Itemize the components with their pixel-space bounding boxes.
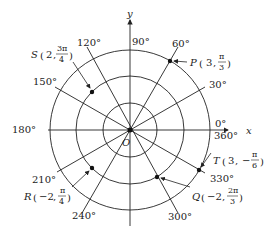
svg-text:2: 2 [46,49,52,60]
point-p [168,59,172,63]
angle-label-300: 300° [168,211,192,222]
svg-text:Q: Q [192,191,200,202]
label-point-r: R ( −2 , π 4 ) [23,186,71,206]
svg-text:): ) [260,156,264,167]
arrow-r [72,171,89,187]
svg-text:3: 3 [230,197,235,206]
angle-label-240: 240° [72,210,96,221]
point-t [197,168,201,172]
svg-text:−2: −2 [207,191,222,202]
svg-text:6: 6 [252,161,257,170]
point-s [90,90,94,94]
arrow-p [174,61,187,62]
angle-label-60: 60° [172,38,190,49]
svg-text:T: T [213,155,221,166]
svg-text:): ) [69,50,73,61]
svg-text:,: , [213,57,216,68]
svg-text:,: , [53,49,56,60]
svg-text:3: 3 [219,63,224,72]
angle-label-90: 90° [132,36,150,47]
angle-label-330: 330° [210,173,234,184]
label-point-p: P ( 3 , π 3 ) [189,52,231,72]
svg-text:4: 4 [59,197,64,206]
angle-label-360: 360° [214,130,238,141]
angle-label-180: 180° [12,124,36,135]
svg-text:π: π [252,150,257,159]
svg-text:(: ( [201,192,205,203]
point-r [90,166,94,170]
arrow-q [161,178,190,187]
svg-text:4: 4 [59,55,64,64]
svg-text:(: ( [40,50,44,61]
angle-label-210: 210° [32,174,56,185]
angle-label-150: 150° [33,76,57,87]
svg-text:(: ( [222,156,226,167]
label-point-s: S ( 2 , 3π 4 ) [31,44,73,64]
angle-label-30: 30° [209,79,227,90]
svg-text:): ) [227,58,231,69]
svg-text:,: , [222,191,225,202]
svg-text:S: S [31,49,38,60]
svg-text:3: 3 [206,57,212,68]
svg-text:(: ( [33,192,37,203]
svg-text:,: , [53,191,56,202]
label-point-q: Q ( −2 , 2π 3 ) [192,186,243,206]
y-axis-label: y [126,8,133,19]
svg-text:3π: 3π [57,44,67,53]
origin-label: O [122,137,130,148]
svg-text:π: π [219,52,224,61]
point-q [155,175,159,179]
svg-text:R: R [23,191,32,202]
svg-text:−: − [242,155,250,166]
svg-text:): ) [67,192,71,203]
polar-diagram: O x y 90° 60° 120° 30° 150° 180° 0° 360°… [0,0,272,237]
angle-label-0: 0° [215,118,226,129]
svg-text:(: ( [199,58,203,69]
svg-text:−2: −2 [39,191,54,202]
svg-text:π: π [60,186,65,195]
svg-text:P: P [189,57,197,68]
svg-text:,: , [235,155,238,166]
origin-dot [128,128,133,133]
svg-text:3: 3 [228,155,234,166]
angle-label-120: 120° [77,37,101,48]
svg-text:2π: 2π [228,186,238,195]
svg-text:): ) [239,192,243,203]
label-point-t: T ( 3 , − π 6 ) [213,150,264,170]
x-axis-label: x [246,125,252,136]
